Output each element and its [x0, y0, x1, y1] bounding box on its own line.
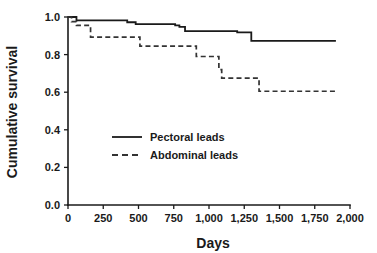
x-axis-tick-label: 1,000	[195, 212, 223, 224]
x-axis-tick-label: 1,500	[266, 212, 294, 224]
x-axis-tick-label: 0	[65, 212, 71, 224]
legend-label-pectoral-leads: Pectoral leads	[150, 131, 225, 143]
x-axis-tick-label: 250	[94, 212, 112, 224]
y-axis-tick-labels: 0.00.20.40.60.81.0	[45, 11, 61, 211]
y-axis-title: Cumulative survival	[4, 46, 20, 178]
y-axis-tick-label: 1.0	[45, 11, 60, 23]
x-axis-tick-label: 750	[165, 212, 183, 224]
y-axis-tick-label: 0.0	[45, 199, 60, 211]
data-series-group	[68, 17, 336, 91]
y-axis-tick-label: 0.6	[45, 86, 60, 98]
x-axis-tick-label: 1,750	[301, 212, 329, 224]
x-axis-tick-label: 500	[129, 212, 147, 224]
series-line-abdominal-leads	[68, 17, 336, 91]
y-axis-tick-label: 0.2	[45, 161, 60, 173]
chart-canvas: 0.00.20.40.60.81.0 02505007501,0001,2501…	[0, 0, 377, 253]
x-axis-tick-labels: 02505007501,0001,2501,5001,7502,000	[65, 212, 364, 224]
x-axis-tick-label: 2,000	[336, 212, 364, 224]
chart-legend: Pectoral leads Abdominal leads	[112, 131, 238, 161]
x-axis-title: Days	[196, 235, 230, 251]
survival-chart-figure: 0.00.20.40.60.81.0 02505007501,0001,2501…	[0, 0, 377, 253]
axis-group	[64, 17, 350, 209]
y-axis-tick-label: 0.4	[45, 124, 61, 136]
x-axis-tick-label: 1,250	[230, 212, 258, 224]
y-axis-tick-label: 0.8	[45, 49, 60, 61]
legend-label-abdominal-leads: Abdominal leads	[150, 149, 238, 161]
